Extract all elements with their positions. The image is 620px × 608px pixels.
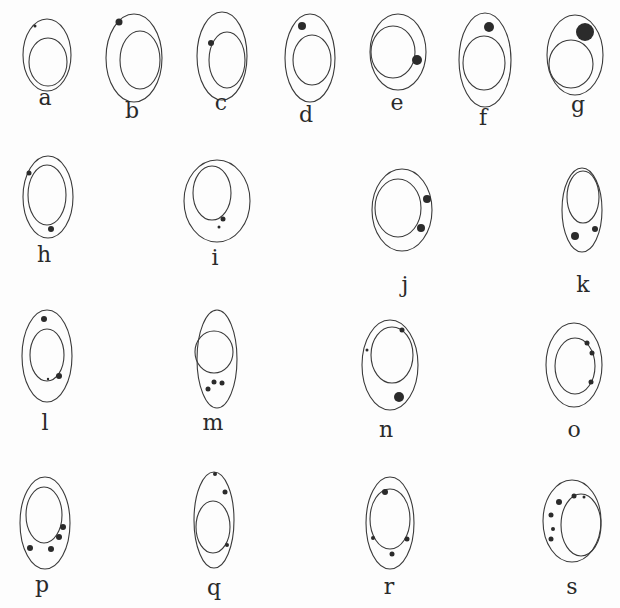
granule	[412, 55, 422, 65]
granule	[571, 232, 579, 240]
granule	[549, 513, 554, 518]
granule	[592, 226, 598, 232]
nucleus	[120, 31, 160, 89]
cell-membrane	[197, 310, 237, 408]
cell-b	[106, 14, 162, 102]
granule	[394, 392, 404, 402]
granule	[213, 472, 217, 476]
nucleus	[463, 36, 505, 90]
granule	[27, 545, 33, 551]
granule	[47, 378, 49, 380]
granule	[549, 537, 554, 542]
granule	[585, 341, 590, 346]
nucleus	[549, 40, 593, 88]
granule	[417, 224, 425, 232]
granule	[221, 217, 226, 222]
granule	[27, 171, 32, 176]
cell-label: n	[379, 419, 393, 441]
cell-h	[23, 156, 73, 238]
granule	[116, 19, 123, 26]
cell-q	[194, 472, 234, 568]
granule	[41, 316, 47, 322]
granule	[405, 537, 410, 542]
cell-f	[459, 13, 511, 107]
cell-c	[197, 12, 247, 100]
granule	[56, 534, 62, 540]
cell-label: m	[203, 412, 224, 434]
cell-a	[23, 19, 71, 91]
cell-g	[547, 15, 603, 95]
nucleus	[561, 494, 601, 556]
cell-label: o	[567, 419, 580, 441]
cell-label: e	[390, 92, 403, 114]
nucleus	[567, 171, 599, 223]
granule	[218, 226, 221, 229]
nucleus	[370, 489, 410, 549]
cell-drawings	[0, 0, 620, 608]
granule	[583, 496, 586, 499]
granule	[400, 328, 405, 333]
nucleus	[26, 487, 62, 543]
cell-membrane	[20, 477, 70, 569]
cell-label: r	[384, 576, 395, 598]
cell-p	[20, 477, 70, 569]
granule	[366, 349, 369, 352]
cell-label: i	[211, 247, 218, 269]
granule	[590, 351, 595, 356]
cell-label: b	[125, 100, 139, 122]
granule	[382, 489, 388, 495]
granule	[551, 527, 555, 531]
granule	[298, 22, 306, 30]
cell-e	[370, 14, 426, 90]
granule	[371, 536, 375, 540]
cell-membrane	[194, 472, 234, 568]
cell-l	[22, 310, 72, 402]
cell-label: d	[299, 104, 313, 126]
granule	[390, 552, 395, 557]
nucleus	[555, 338, 595, 394]
cell-membrane	[370, 14, 426, 90]
cell-membrane	[547, 15, 603, 95]
nucleus	[371, 327, 413, 383]
nucleus	[28, 165, 66, 225]
cell-label: f	[479, 107, 487, 129]
cell-m	[195, 310, 237, 408]
granule	[556, 499, 562, 505]
cell-plate-figure: abcdefghijklmnopqrs	[0, 0, 620, 608]
cell-j	[372, 169, 432, 251]
cell-label: s	[566, 576, 577, 598]
cell-label: q	[207, 577, 221, 599]
granule	[572, 494, 577, 499]
nucleus	[195, 331, 233, 373]
cell-membrane	[106, 14, 162, 102]
granule	[223, 490, 228, 495]
granule	[206, 387, 211, 392]
granule	[48, 226, 54, 232]
nucleus	[209, 32, 245, 88]
granule	[484, 22, 494, 32]
nucleus	[196, 501, 230, 553]
cell-membrane	[362, 320, 418, 410]
granule	[212, 380, 217, 385]
cell-d	[285, 14, 335, 102]
nucleus	[375, 179, 421, 237]
cell-label: l	[41, 412, 48, 434]
granule	[225, 543, 229, 547]
nucleus	[293, 35, 331, 85]
nucleus	[29, 38, 67, 86]
granule	[208, 40, 214, 46]
cell-membrane	[372, 169, 432, 251]
granule	[220, 381, 225, 386]
granule	[423, 195, 431, 203]
cell-label: h	[37, 244, 51, 266]
nucleus	[371, 26, 415, 78]
nucleus	[193, 166, 231, 220]
cell-label: a	[38, 87, 51, 109]
cell-o	[546, 323, 602, 407]
cell-membrane	[285, 14, 335, 102]
granule	[56, 373, 62, 379]
cell-label: c	[215, 92, 227, 114]
cell-n	[362, 320, 418, 410]
granule	[60, 524, 66, 530]
cell-k	[562, 168, 602, 252]
